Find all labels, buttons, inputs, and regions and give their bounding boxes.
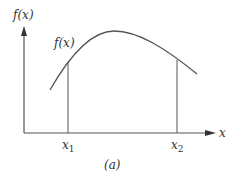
x1-label: x1 — [62, 138, 75, 154]
x2-label: x2 — [171, 138, 184, 154]
x-axis-label: x — [219, 126, 226, 140]
curve-label: f(x) — [53, 36, 75, 50]
x-axis-arrow-icon — [205, 130, 216, 136]
y-axis-arrow-icon — [21, 26, 27, 36]
function-area-diagram: f(x) f(x) x x1 x2 (a) — [0, 0, 238, 178]
y-axis-label: f(x) — [12, 8, 34, 22]
x1-subscript: 1 — [69, 144, 75, 154]
x2-subscript: 2 — [178, 144, 184, 154]
figure-caption: (a) — [104, 158, 121, 172]
